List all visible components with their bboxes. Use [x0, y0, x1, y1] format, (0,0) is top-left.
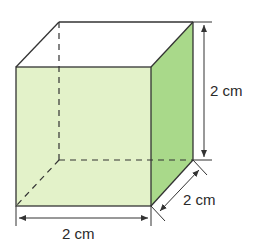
depth-label: 2 cm	[183, 191, 216, 208]
cube-side-face	[151, 22, 193, 206]
width-label: 2 cm	[62, 225, 95, 242]
height-label: 2 cm	[210, 82, 243, 99]
cube-diagram: 2 cm 2 cm 2 cm	[0, 0, 269, 247]
width-dimension	[16, 206, 151, 226]
